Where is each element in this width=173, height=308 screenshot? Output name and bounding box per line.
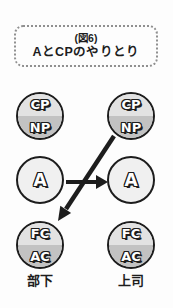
figure-number: (図6) (75, 32, 98, 45)
a-label: A (124, 172, 137, 189)
subordinate-ac-half: AC (18, 245, 62, 267)
cp-to-ac-arrow (58, 136, 114, 221)
subordinate-parent-circle: CP NP (16, 92, 64, 140)
figure-title: AとCPのやりとり (32, 45, 139, 60)
subordinate-cp-half: CP (18, 94, 62, 118)
cp-label: CP (30, 98, 49, 111)
figure-6-diagram: (図6) AとCPのやりとり CP NP A FC AC 部下 CP NP A (0, 0, 173, 308)
cp-label: CP (121, 98, 140, 111)
subordinate-child-circle: FC AC (16, 221, 64, 269)
subordinate-np-half: NP (18, 116, 62, 138)
boss-parent-circle: CP NP (107, 92, 155, 140)
boss-child-circle: FC AC (107, 221, 155, 269)
boss-cp-half: CP (109, 94, 153, 118)
subordinate-adult-circle: A (16, 156, 64, 204)
boss-fc-half: FC (109, 223, 153, 247)
np-label: NP (30, 121, 50, 134)
boss-ac-half: AC (109, 245, 153, 267)
a-label: A (33, 172, 46, 189)
fc-label: FC (31, 227, 49, 240)
figure-caption-box: (図6) AとCPのやりとり (14, 25, 158, 67)
boss-adult-circle: A (107, 156, 155, 204)
subordinate-fc-half: FC (18, 223, 62, 247)
boss-role-label: 上司 (107, 270, 155, 289)
fc-label: FC (122, 227, 140, 240)
subordinate-role-label: 部下 (16, 270, 64, 289)
boss-np-half: NP (109, 116, 153, 138)
np-label: NP (121, 121, 141, 134)
a-to-a-arrow (66, 175, 108, 189)
ac-label: AC (30, 250, 50, 263)
ac-label: AC (121, 250, 141, 263)
